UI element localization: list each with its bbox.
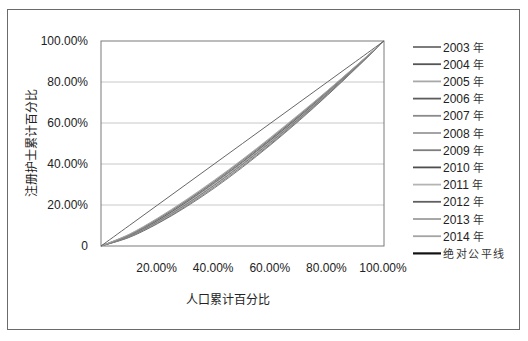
x-tick-label: 80.00% (306, 261, 347, 275)
x-tick-label: 60.00% (249, 261, 290, 275)
series-line (101, 41, 384, 246)
y-tick-label: 0 (81, 239, 88, 253)
legend-label: 2009 年 (443, 144, 484, 158)
x-tick-label: 40.00% (193, 261, 234, 275)
x-tick-label: 100.00% (359, 261, 407, 275)
y-tick-label: 20.00% (47, 198, 88, 212)
y-tick-label: 40.00% (47, 157, 88, 171)
series-lines (101, 41, 384, 246)
x-tick-label: 20.00% (136, 261, 177, 275)
legend-label: 2012 年 (443, 195, 484, 209)
y-axis-ticks: 020.00%40.00%60.00%80.00%100.00% (41, 34, 89, 253)
legend-label: 绝对公平线 (443, 247, 506, 261)
y-tick-label: 100.00% (41, 34, 89, 48)
legend-label: 2003 年 (443, 41, 484, 55)
y-tick-label: 60.00% (47, 116, 88, 130)
y-tick-label: 80.00% (47, 75, 88, 89)
x-axis-ticks: 20.00%40.00%60.00%80.00%100.00% (136, 261, 407, 275)
legend-label: 2004 年 (443, 58, 484, 72)
legend-label: 2013 年 (443, 213, 484, 227)
legend-label: 2011 年 (443, 178, 483, 192)
y-axis-title: 注册护士累计百分比 (24, 89, 39, 197)
x-axis-title: 人口累计百分比 (186, 293, 270, 307)
legend-label: 2014 年 (443, 230, 484, 244)
legend-label: 2008 年 (443, 127, 484, 141)
legend-label: 2006 年 (443, 92, 484, 106)
legend-label: 2005 年 (443, 75, 484, 89)
legend-label: 2010 年 (443, 161, 484, 175)
lorenz-chart: 020.00%40.00%60.00%80.00%100.00% 20.00%4… (0, 0, 528, 341)
legend: 2003 年2004 年2005 年2006 年2007 年2008 年2009… (413, 41, 506, 261)
legend-label: 2007 年 (443, 109, 484, 123)
